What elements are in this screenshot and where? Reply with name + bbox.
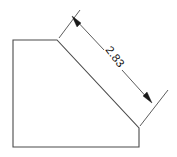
- drawing-svg: 2.83: [0, 0, 177, 157]
- technical-drawing-canvas: 2.83: [0, 0, 177, 157]
- dimension-arrowhead-end-icon: [143, 92, 152, 103]
- dimension-arrowhead-start-icon: [72, 16, 81, 27]
- dimension-label: 2.83: [103, 44, 127, 70]
